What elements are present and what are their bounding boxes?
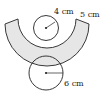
arc-band [5,19,89,66]
top-radius-label: 4 cm [54,7,74,16]
net-diagram: 4 cm 5 cm 6 cm [0,0,104,98]
bottom-radius-label: 6 cm [64,79,84,88]
band-width-label: 5 cm [80,10,100,19]
top-circle-radius [46,22,55,28]
